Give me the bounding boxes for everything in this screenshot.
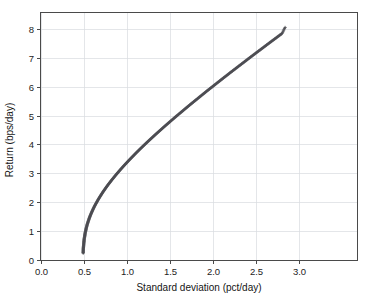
y-tick-label: 0 bbox=[29, 255, 34, 266]
x-tick-label: 2.5 bbox=[250, 266, 263, 277]
y-tick-label: 5 bbox=[29, 111, 34, 122]
y-tick-label: 3 bbox=[29, 168, 34, 179]
x-axis-ticks: 0.00.51.01.52.02.53.0 bbox=[35, 260, 306, 277]
y-tick-label: 1 bbox=[29, 226, 34, 237]
x-tick-label: 0.5 bbox=[78, 266, 91, 277]
x-axis-title: Standard deviation (pct/day) bbox=[136, 282, 261, 293]
y-axis-ticks: 012345678 bbox=[29, 24, 41, 266]
x-tick-label: 1.5 bbox=[164, 266, 177, 277]
data-series-efficient-frontier bbox=[82, 26, 287, 255]
y-tick-label: 8 bbox=[29, 24, 34, 35]
chart-canvas: 0.00.51.01.52.02.53.0 012345678 Standard… bbox=[0, 0, 374, 300]
x-tick-label: 1.0 bbox=[121, 266, 134, 277]
y-tick-label: 2 bbox=[29, 197, 34, 208]
chart-figure: 0.00.51.01.52.02.53.0 012345678 Standard… bbox=[0, 0, 374, 300]
y-axis-title: Return (bps/day) bbox=[4, 103, 15, 177]
y-tick-label: 7 bbox=[29, 53, 34, 64]
y-tick-label: 6 bbox=[29, 82, 34, 93]
x-tick-label: 0.0 bbox=[35, 266, 48, 277]
x-tick-label: 3.0 bbox=[293, 266, 306, 277]
x-tick-label: 2.0 bbox=[207, 266, 220, 277]
y-tick-label: 4 bbox=[29, 139, 34, 150]
